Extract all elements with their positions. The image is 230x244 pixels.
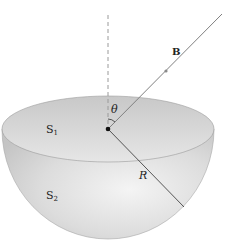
field-label-b: B	[172, 47, 180, 57]
surface-label-s1-sub: 1	[54, 129, 58, 137]
surface-label-s2-sub: 2	[54, 195, 58, 203]
surface-label-s2-main: S	[46, 189, 54, 202]
surface-label-s2: S2	[46, 190, 58, 203]
surface-label-s1: S1	[46, 124, 58, 137]
angle-label-theta: θ	[111, 104, 118, 115]
hemisphere-flux-diagram	[0, 0, 230, 244]
center-point	[106, 127, 111, 132]
field-arrow-marker	[164, 69, 167, 72]
surface-label-s1-main: S	[46, 123, 54, 136]
radius-label-r: R	[139, 170, 147, 181]
